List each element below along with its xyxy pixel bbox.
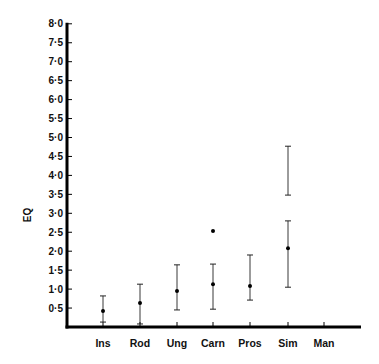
- y-tick-label: 4·0: [49, 170, 64, 181]
- outlier-point: [211, 229, 215, 233]
- y-tick-label: 1·5: [49, 265, 64, 276]
- y-tick-label: 3·5: [49, 189, 64, 200]
- y-tick-label: 7·5: [49, 37, 64, 48]
- y-tick-label: 7·0: [49, 56, 64, 67]
- y-tick-label: 0·5: [49, 303, 64, 314]
- mean-point: [211, 282, 215, 286]
- plot-area: [100, 146, 291, 324]
- y-tick-label: 5·0: [49, 132, 64, 143]
- y-tick-label: 6·0: [49, 94, 64, 105]
- eq-chart: 0·51·01·52·02·53·03·54·04·55·05·56·06·57…: [0, 0, 379, 364]
- x-category-label: Sim: [278, 337, 297, 349]
- mean-point: [101, 309, 105, 313]
- y-tick-label: 5·5: [49, 113, 64, 124]
- x-category-label: Man: [314, 337, 335, 349]
- y-tick-label: 2·5: [49, 227, 64, 238]
- x-category-label: Rod: [130, 337, 150, 349]
- y-tick-label: 4·5: [49, 151, 64, 162]
- y-axis: 0·51·01·52·02·53·03·54·04·55·05·56·06·57…: [49, 18, 72, 328]
- y-axis-label: EQ: [22, 208, 33, 223]
- y-tick-label: 8·0: [49, 18, 64, 29]
- y-tick-label: 1·0: [49, 284, 64, 295]
- x-category-label: Carn: [201, 337, 225, 349]
- x-axis: InsRodUngCarnProsSimMan: [66, 322, 362, 349]
- x-category-label: Ins: [95, 337, 110, 349]
- y-tick-label: 3·0: [49, 208, 64, 219]
- y-tick-label: 2·0: [49, 246, 64, 257]
- y-tick-label: 6·5: [49, 75, 64, 86]
- x-category-label: Ung: [167, 337, 187, 349]
- mean-point: [175, 289, 179, 293]
- x-category-label: Pros: [238, 337, 262, 349]
- mean-point: [138, 301, 142, 305]
- mean-point: [248, 284, 252, 288]
- mean-point: [286, 246, 290, 250]
